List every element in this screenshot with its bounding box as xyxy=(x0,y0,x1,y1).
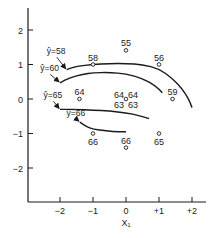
contour-label-60: ŷ=60 xyxy=(40,63,59,73)
data-point-label: 64 xyxy=(114,90,124,100)
data-point-label: 66 xyxy=(88,137,98,147)
contour-label-66: ŷ=66 xyxy=(67,108,86,118)
x-tick-label: +1 xyxy=(154,206,164,216)
x-tick-label: +2 xyxy=(187,206,197,216)
data-point-marker xyxy=(124,49,128,53)
contour-arrow-65 xyxy=(54,101,60,108)
y-ticks: 210−1−2 xyxy=(13,26,33,174)
contour-line-66 xyxy=(80,122,126,132)
y-tick-label: −2 xyxy=(13,164,23,174)
data-point-marker xyxy=(91,63,95,67)
x-tick-label: −1 xyxy=(88,206,98,216)
data-point-marker xyxy=(91,132,95,136)
data-point-marker xyxy=(78,97,82,101)
y-tick-label: 1 xyxy=(18,60,23,70)
data-point-marker xyxy=(124,146,128,150)
data-point-marker xyxy=(157,132,161,136)
data-point-label: 65 xyxy=(154,137,164,147)
contour-arrow-60 xyxy=(50,74,59,81)
x-tick-label: 0 xyxy=(123,206,128,216)
y-tick-label: 2 xyxy=(18,26,23,36)
data-point-label: 55 xyxy=(121,38,131,48)
x-tick-label: −2 xyxy=(55,206,65,216)
y-tick-label: 0 xyxy=(18,95,23,105)
contour-arrow-66 xyxy=(77,119,79,121)
data-point-label: 63 xyxy=(114,100,124,110)
data-point-label: 64 xyxy=(128,90,138,100)
x-ticks: −2−10+1+2 xyxy=(55,197,197,216)
y-tick-label: −1 xyxy=(13,129,23,139)
data-point-label: 64 xyxy=(74,87,84,97)
contour-label-65: ŷ=65 xyxy=(44,90,63,100)
data-point-label: 56 xyxy=(154,53,164,63)
contour-plot: 210−1−2 −2−10+1+2 X₁ ŷ=58ŷ=60ŷ=65ŷ=66 58… xyxy=(0,0,213,238)
data-point-label: 59 xyxy=(168,87,178,97)
data-point-label: 63 xyxy=(128,100,138,110)
x-axis-label: X₁ xyxy=(121,218,130,228)
data-point-label: 66 xyxy=(121,136,131,146)
data-point-marker xyxy=(171,97,175,101)
data-point-label: 58 xyxy=(88,53,98,63)
data-points: 585556646464636359666665 xyxy=(74,38,177,149)
contour-label-58: ŷ=58 xyxy=(47,46,66,56)
data-point-marker xyxy=(157,63,161,67)
